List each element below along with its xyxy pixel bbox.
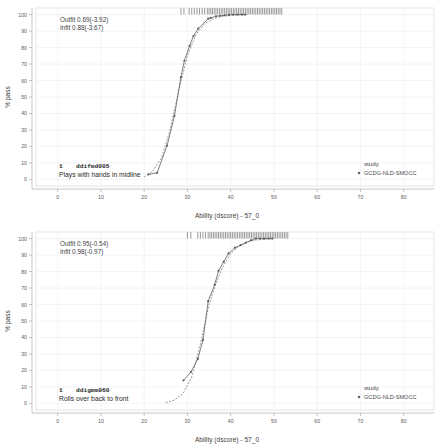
x-tick-labels: 01020304050607080 [56,189,407,200]
y-tick-label: 30 [21,351,27,357]
y-tick-label: 70 [21,285,27,291]
data-point [268,237,270,239]
x-tick-label: 0 [56,418,59,424]
data-point [190,371,192,373]
legend-title: study [364,160,380,167]
y-tick-label: 20 [21,367,27,373]
panel-top-plot: 010203040506070800102030405060708090100A… [0,0,442,224]
legend-entry-label: GCDG-NLD-SMOCC [364,170,417,176]
data-point [241,13,243,15]
infit-label: Infit 0.98(-0.97) [60,248,103,256]
x-tick-label: 70 [358,418,364,424]
data-point [227,252,229,254]
data-point [219,15,221,17]
outfit-label: Outfit 0.69(-3.92) [60,16,108,24]
item-description: Rolls over back to front [59,395,129,402]
y-tick-label: 90 [21,252,27,258]
x-axis-title: Ability (dscore) - 57_0 [195,436,259,444]
data-point [255,237,257,239]
data-point [166,145,168,147]
x-tick-label: 20 [141,418,147,424]
data-point [156,172,158,174]
x-tick-label: 60 [314,418,320,424]
x-tick-label: 30 [185,194,191,200]
item-description: Plays with hands in midline [59,171,141,179]
data-point [259,237,261,239]
x-tick-label: 80 [401,194,407,200]
x-tick-label: 0 [56,194,59,200]
data-point [180,76,182,78]
data-point [214,284,216,286]
outfit-label: Outfit 0.95(-0.54) [60,240,108,248]
y-tick-label: 100 [18,12,27,18]
item-code: ddifmd005 [76,163,110,170]
x-tick-label: 40 [228,194,234,200]
y-tick-label: 30 [21,127,27,133]
data-point [237,13,239,15]
data-point [224,14,226,16]
legend-marker [358,396,360,398]
item-code: ddigmm060 [76,387,110,394]
data-point [223,261,225,263]
figure-root: 010203040506070800102030405060708090100A… [0,0,442,448]
item-number: 1 [59,387,63,394]
y-tick-label: 50 [21,94,27,100]
data-point [207,18,209,20]
data-point [188,45,190,47]
data-point [215,15,217,17]
data-point [240,244,242,246]
data-point [228,14,230,16]
y-tick-label: 10 [21,384,27,390]
y-tick-label: 80 [21,269,27,275]
y-tick-labels: 0102030405060708090100 [18,12,32,183]
x-tick-label: 10 [98,418,104,424]
y-axis-title: % pass [4,85,12,107]
data-point [182,379,184,381]
item-number: 1 [59,163,63,170]
data-point [245,242,247,244]
data-point [202,339,204,341]
y-tick-label: 60 [21,78,27,84]
x-tick-label: 80 [401,418,407,424]
x-tick-label: 30 [185,418,191,424]
data-point [207,300,209,302]
x-tick-label: 50 [271,418,277,424]
x-tick-label: 10 [98,194,104,200]
panel-bottom: 010203040506070800102030405060708090100A… [0,224,442,448]
legend-entry-label: GCDG-NLD-SMOCC [364,394,417,400]
y-tick-label: 0 [24,400,27,406]
data-point [244,13,246,15]
x-tick-labels: 01020304050607080 [56,413,407,424]
y-tick-label: 0 [24,176,27,182]
y-tick-label: 70 [21,61,27,67]
y-tick-label: 10 [21,160,27,166]
data-point [271,237,273,239]
data-point [173,115,175,117]
x-tick-label: 50 [271,194,277,200]
panel-top: 010203040506070800102030405060708090100A… [0,0,442,224]
y-tick-label: 100 [18,236,27,242]
y-tick-label: 40 [21,334,27,340]
y-tick-label: 20 [21,143,27,149]
data-point [217,270,219,272]
y-tick-label: 60 [21,302,27,308]
data-point [250,239,252,241]
data-point [197,28,199,30]
x-tick-label: 60 [314,194,320,200]
y-tick-labels: 0102030405060708090100 [18,236,32,407]
y-tick-label: 40 [21,110,27,116]
data-point [234,247,236,249]
x-tick-label: 20 [141,194,147,200]
y-axis-title: % pass [4,309,12,331]
y-tick-label: 80 [21,45,27,51]
data-point [210,17,212,19]
x-tick-label: 40 [228,418,234,424]
legend-marker [358,172,360,174]
data-point [192,35,194,37]
data-point [197,358,199,360]
data-point [232,13,234,15]
infit-label: Infit 0.88(-3.67) [60,24,103,32]
x-tick-label: 70 [358,194,364,200]
y-tick-label: 90 [21,28,27,34]
x-axis-title: Ability (dscore) - 57_0 [195,212,259,220]
